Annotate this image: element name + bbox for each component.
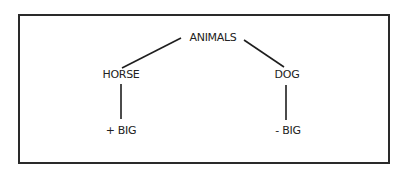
- tree-edges: [0, 0, 406, 169]
- node-dog-feature: - BIG: [275, 125, 300, 137]
- node-horse-feature: + BIG: [106, 125, 137, 137]
- edge-animals-dog: [244, 40, 284, 67]
- node-animals: ANIMALS: [189, 32, 236, 44]
- node-dog: DOG: [275, 69, 300, 81]
- node-horse: HORSE: [102, 69, 139, 81]
- edge-animals-horse: [122, 38, 181, 68]
